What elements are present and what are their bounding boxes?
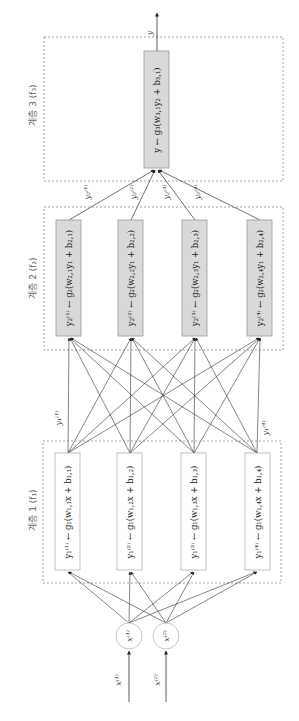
layer2-label: 계층 2 (f₂) (27, 257, 38, 298)
layer1-node-4-formula: y₁⁽⁴⁾ ← g₁(w₁,₄x + b₁,₄) (253, 466, 263, 560)
input-arrow-1-label: x⁽¹⁾ (114, 674, 123, 686)
layer2-node-3-formula: y₂⁽³⁾ ← g₂(w₂,₃y₁ + b₂,₃) (190, 230, 200, 327)
layer3-label: 계층 3 (f₃) (27, 84, 38, 125)
input-node-2-label: x⁽²⁾ (162, 630, 171, 642)
layer1-node-3-formula: y₁⁽³⁾ ← g₁(w₁,₃x + b₁,₃) (189, 466, 199, 560)
edge-label-y2-2: y₂⁽²⁾ (129, 185, 138, 201)
layer3-node-1-formula: y ← g₃(w₃,₁y₂ + b₃,₁) (152, 67, 162, 153)
input-arrow-2-label: x⁽²⁾ (153, 674, 162, 686)
edge-label-y1-1: y₁⁽¹⁾ (54, 411, 63, 427)
edges-input-to-layer1 (68, 572, 257, 623)
layer2-node-2-formula: y₂⁽²⁾ ← g₂(w₂,₂y₁ + b₂,₂) (126, 230, 136, 327)
edges-layer1-to-layer2 (68, 338, 260, 453)
neural-network-diagram: 계층 3 (f₃) y ← g₃(w₃,₁y₂ + b₃,₁) y y₂⁽¹⁾ … (0, 0, 299, 721)
edge-label-y2-4: y₂⁽⁴⁾ (193, 185, 202, 201)
edge-label-y2-1: y₂⁽¹⁾ (83, 185, 92, 201)
layer2-node-1-formula: y₂⁽¹⁾ ← g₂(w₂,₁y₁ + b₂,₁) (64, 230, 74, 327)
layer1-node-2-formula: y₁⁽²⁾ ← g₁(w₁,₂x + b₁,₂) (125, 466, 135, 560)
layer2-node-4-formula: y₂⁽⁴⁾ ← g₂(w₂,₄y₁ + b₂,₄) (255, 230, 265, 327)
edge-label-y2-3: y₂⁽³⁾ (162, 185, 171, 201)
input-node-1-label: x⁽¹⁾ (125, 630, 134, 642)
output-label: y (145, 30, 154, 36)
layer1-label: 계층 1 (f₁) (27, 489, 38, 530)
layer1-node-1-formula: y₁⁽¹⁾ ← g₁(w₁,₁x + b₁,₁) (63, 466, 73, 560)
edge-label-y1-4: y₁⁽⁴⁾ (261, 421, 270, 437)
